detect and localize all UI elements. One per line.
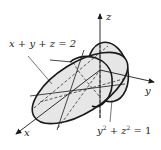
- x-axis-label: x: [24, 128, 30, 138]
- cylinder-equation-label: y2 + z2 = 1: [97, 125, 151, 136]
- y-axis-label: y: [145, 86, 151, 96]
- z-axis-label: z: [106, 12, 111, 22]
- plane-equation-label: x + y + z = 2: [9, 39, 76, 49]
